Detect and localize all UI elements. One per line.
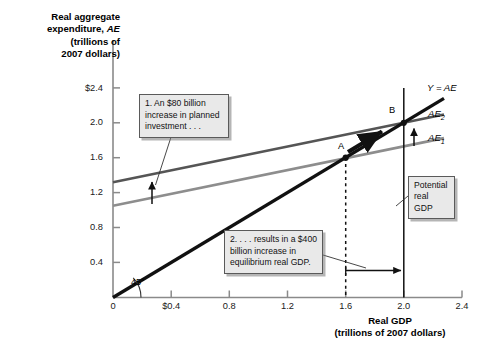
curve-label-ae2-base: AE	[428, 108, 441, 119]
callout-investment-leader	[156, 134, 173, 185]
x-axis-title-line-1: Real GDP	[368, 315, 412, 326]
y-axis-title-line-2-emphasis: AE	[107, 23, 120, 34]
callout-potential-real-gdp: Potential real GDP	[408, 176, 455, 219]
curve-label-ae1: AE1	[428, 132, 445, 147]
curve-label-ae2: AE2	[428, 108, 445, 123]
x-tick-label-1-6: 1.6	[326, 301, 366, 312]
y-axis-title-line-3: (trillions of	[70, 36, 120, 47]
callout-potential-leader	[396, 196, 408, 206]
x-tick-label-0-8: 0.8	[209, 301, 249, 312]
y-tick-label-0-8: 0.8	[59, 222, 103, 233]
y-axis-title-line-4: 2007 dollars)	[61, 48, 120, 59]
keynesian-cross-figure: Real aggregateexpenditure, AE(trillions …	[0, 0, 483, 354]
point-a-marker	[343, 155, 349, 161]
x-tick-label-0: 0	[93, 301, 133, 312]
point-b-label: B	[389, 105, 395, 116]
y-tick-label-0-4: 0.4	[59, 257, 103, 268]
curve-label-ae1-base: AE	[428, 132, 441, 143]
x-tick-label-0-4: $0.4	[151, 301, 191, 312]
callout-gdp-increase: 2. . . . results in a $400 billion incre…	[224, 230, 323, 274]
y-tick-label-2-0: 2.0	[59, 117, 103, 128]
angle-label-45-degrees: 45°	[131, 277, 145, 288]
x-axis-title-line-2: (trillions of 2007 dollars)	[335, 327, 446, 338]
y-axis-title-line-2-prefix: expenditure,	[47, 23, 107, 34]
y-axis-ticks	[113, 88, 120, 263]
y-axis-title: Real aggregateexpenditure, AE(trillions …	[8, 11, 120, 61]
point-a-label: A	[338, 141, 344, 152]
x-tick-label-1-2: 1.2	[268, 301, 308, 312]
x-tick-label-2-4: 2.4	[442, 301, 482, 312]
callout-investment: 1. An $80 billion increase in planned in…	[139, 94, 229, 138]
curve-label-ae1-subscript: 1	[441, 137, 445, 146]
y-tick-label-1-2: 1.2	[59, 187, 103, 198]
y-tick-label-2-4: $2.4	[59, 83, 103, 94]
x-tick-label-2-0: 2.0	[384, 301, 424, 312]
y-axis-title-line-1: Real aggregate	[51, 11, 120, 22]
movement-arrow-on-45-line	[348, 132, 382, 153]
x-axis-ticks	[171, 291, 462, 298]
y-tick-label-1-6: 1.6	[59, 152, 103, 163]
x-axis-title: Real GDP(trillions of 2007 dollars)	[300, 315, 480, 340]
curve-label-ae2-subscript: 2	[441, 113, 445, 122]
point-b-marker	[401, 120, 407, 126]
curve-label-45-degree-line: Y = AE	[427, 82, 457, 94]
